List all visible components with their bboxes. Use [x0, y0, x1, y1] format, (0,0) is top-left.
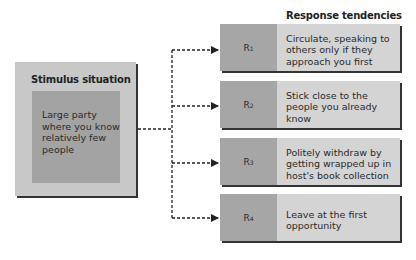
- response-box-r2: R2 Stick close to the people you already…: [220, 81, 400, 128]
- stimulus-title: Stimulus situation: [31, 74, 131, 85]
- response-box-r3: R3 Politely withdraw by getting wrapped …: [220, 138, 400, 185]
- response-text-r2: Stick close to the people you already kn…: [277, 81, 400, 128]
- response-label-r2: R2: [220, 81, 277, 128]
- response-text-r3: Politely withdraw by getting wrapped up …: [277, 138, 400, 185]
- response-text-r1: Circulate, speaking to others only if th…: [277, 24, 400, 71]
- response-text-r4: Leave at the first opportunity: [277, 194, 400, 241]
- response-tendencies-heading: Response tendencies: [286, 10, 402, 21]
- stimulus-description-box: Large party where you know relatively fe…: [32, 91, 120, 183]
- response-label-r3: R3: [220, 138, 277, 185]
- stimulus-description: Large party where you know relatively fe…: [42, 109, 120, 155]
- response-box-r1: R1 Circulate, speaking to others only if…: [220, 24, 400, 71]
- response-label-r4: R4: [220, 194, 277, 241]
- stimulus-situation-box: Stimulus situation Large party where you…: [15, 62, 136, 196]
- response-box-r4: R4 Leave at the first opportunity: [220, 194, 400, 241]
- response-label-r1: R1: [220, 24, 277, 71]
